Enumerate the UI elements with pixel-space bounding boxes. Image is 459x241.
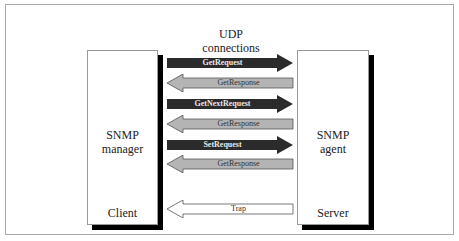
arrow-label: GetRequest bbox=[167, 54, 278, 72]
agent-title-line2: agent bbox=[298, 142, 368, 156]
snmp-agent-box: SNMP agent Server bbox=[297, 50, 369, 225]
getrequest-arrow: GetRequest bbox=[167, 54, 294, 72]
getnextrequest-arrow: GetNextRequest bbox=[167, 95, 294, 113]
getresponse-arrow-1: GetResponse bbox=[167, 74, 294, 92]
arrow-label: GetResponse bbox=[183, 155, 294, 173]
getresponse-arrow-3: GetResponse bbox=[167, 155, 294, 173]
arrow-label: SetRequest bbox=[167, 136, 278, 154]
snmp-manager-box: SNMP manager Client bbox=[87, 50, 158, 225]
trap-arrow: Trap bbox=[167, 200, 294, 218]
server-label: Server bbox=[298, 206, 368, 221]
manager-title-line2: manager bbox=[88, 142, 157, 156]
arrow-label: GetResponse bbox=[183, 115, 294, 133]
agent-title: SNMP agent bbox=[298, 128, 368, 156]
manager-title-line1: SNMP bbox=[88, 128, 157, 142]
agent-title-line1: SNMP bbox=[298, 128, 368, 142]
manager-title: SNMP manager bbox=[88, 128, 157, 156]
arrow-label: GetNextRequest bbox=[167, 95, 278, 113]
udp-line: UDP bbox=[196, 27, 266, 41]
udp-connections-label: UDP connections bbox=[196, 27, 266, 55]
arrow-label: Trap bbox=[183, 200, 294, 218]
client-label: Client bbox=[88, 206, 157, 221]
getresponse-arrow-2: GetResponse bbox=[167, 115, 294, 133]
setrequest-arrow: SetRequest bbox=[167, 136, 294, 154]
connections-line: connections bbox=[196, 41, 266, 55]
arrow-label: GetResponse bbox=[183, 74, 294, 92]
